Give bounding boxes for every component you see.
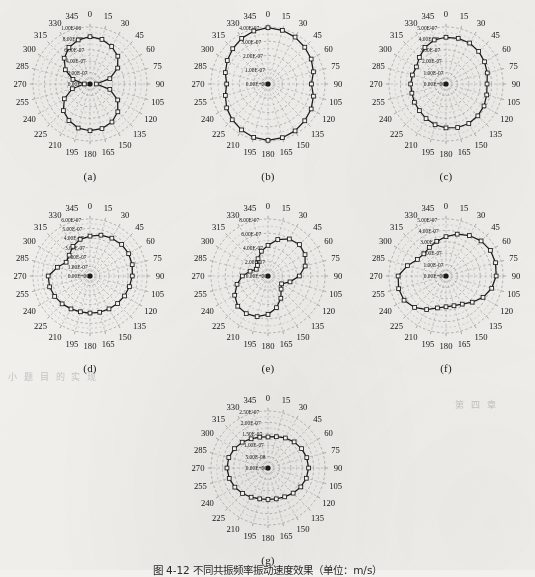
svg-text:45: 45 bbox=[135, 222, 144, 232]
svg-text:270: 270 bbox=[192, 79, 205, 89]
svg-text:285: 285 bbox=[194, 61, 207, 71]
svg-text:105: 105 bbox=[329, 289, 342, 299]
svg-text:45: 45 bbox=[313, 222, 322, 232]
svg-text:75: 75 bbox=[331, 445, 340, 455]
svg-text:45: 45 bbox=[491, 222, 500, 232]
svg-text:30: 30 bbox=[299, 210, 308, 220]
svg-text:330: 330 bbox=[227, 18, 240, 28]
svg-text:165: 165 bbox=[280, 147, 293, 157]
svg-text:225: 225 bbox=[212, 129, 225, 139]
svg-text:285: 285 bbox=[16, 253, 29, 263]
svg-text:210: 210 bbox=[227, 332, 240, 342]
svg-text:135: 135 bbox=[311, 129, 324, 139]
svg-text:90: 90 bbox=[512, 79, 521, 89]
svg-text:135: 135 bbox=[133, 129, 146, 139]
svg-text:135: 135 bbox=[311, 513, 324, 523]
svg-text:135: 135 bbox=[489, 321, 502, 331]
svg-text:30: 30 bbox=[121, 210, 130, 220]
svg-text:105: 105 bbox=[329, 97, 342, 107]
svg-text:195: 195 bbox=[243, 147, 256, 157]
svg-text:135: 135 bbox=[133, 321, 146, 331]
svg-text:60: 60 bbox=[146, 236, 155, 246]
svg-text:105: 105 bbox=[507, 97, 520, 107]
panel-label-a: (a) bbox=[2, 170, 178, 182]
svg-text:180: 180 bbox=[84, 341, 97, 351]
svg-text:240: 240 bbox=[23, 114, 36, 124]
svg-text:240: 240 bbox=[379, 114, 392, 124]
svg-text:330: 330 bbox=[405, 210, 418, 220]
svg-text:15: 15 bbox=[282, 203, 291, 213]
svg-text:240: 240 bbox=[201, 114, 214, 124]
svg-text:30: 30 bbox=[121, 18, 130, 28]
svg-text:0: 0 bbox=[444, 201, 448, 211]
svg-text:255: 255 bbox=[372, 289, 385, 299]
svg-text:300: 300 bbox=[379, 44, 392, 54]
svg-text:270: 270 bbox=[370, 271, 383, 281]
svg-text:285: 285 bbox=[194, 253, 207, 263]
svg-text:165: 165 bbox=[102, 147, 115, 157]
svg-text:0.00E+00: 0.00E+00 bbox=[424, 273, 445, 279]
svg-text:120: 120 bbox=[500, 306, 513, 316]
svg-text:165: 165 bbox=[280, 339, 293, 349]
svg-text:255: 255 bbox=[194, 481, 207, 491]
polar-plot-panel-b: 0153045607590105120135150165180195210225… bbox=[180, 4, 356, 170]
svg-text:135: 135 bbox=[489, 129, 502, 139]
svg-text:300: 300 bbox=[379, 236, 392, 246]
panel-label-e: (e) bbox=[180, 362, 356, 374]
svg-text:165: 165 bbox=[458, 147, 471, 157]
svg-text:240: 240 bbox=[201, 498, 214, 508]
svg-text:210: 210 bbox=[49, 140, 62, 150]
svg-text:120: 120 bbox=[144, 306, 157, 316]
svg-text:30: 30 bbox=[299, 18, 308, 28]
svg-text:180: 180 bbox=[440, 341, 453, 351]
svg-text:5.00E-08: 5.00E-08 bbox=[245, 454, 265, 460]
svg-text:180: 180 bbox=[262, 341, 275, 351]
svg-text:195: 195 bbox=[421, 147, 434, 157]
svg-text:75: 75 bbox=[153, 61, 162, 71]
svg-text:180: 180 bbox=[84, 149, 97, 159]
svg-text:15: 15 bbox=[282, 395, 291, 405]
svg-text:345: 345 bbox=[243, 11, 256, 21]
svg-text:5.00E-07: 5.00E-07 bbox=[417, 217, 437, 223]
svg-text:120: 120 bbox=[322, 114, 335, 124]
svg-text:2.00E-07: 2.00E-07 bbox=[422, 58, 442, 64]
figure-caption: 图 4-12 不同共振频率振动速度效果（单位：m/s） bbox=[0, 562, 535, 577]
svg-text:75: 75 bbox=[509, 61, 518, 71]
svg-text:165: 165 bbox=[280, 531, 293, 541]
svg-text:255: 255 bbox=[194, 289, 207, 299]
svg-text:4.00E-07: 4.00E-07 bbox=[239, 25, 259, 31]
svg-text:270: 270 bbox=[192, 463, 205, 473]
svg-text:195: 195 bbox=[243, 339, 256, 349]
svg-text:0.00E+00: 0.00E+00 bbox=[246, 81, 267, 87]
svg-text:60: 60 bbox=[324, 428, 333, 438]
svg-text:300: 300 bbox=[201, 44, 214, 54]
svg-text:255: 255 bbox=[16, 97, 29, 107]
svg-text:0: 0 bbox=[266, 393, 270, 403]
svg-text:285: 285 bbox=[372, 253, 385, 263]
svg-text:345: 345 bbox=[243, 395, 256, 405]
svg-text:240: 240 bbox=[23, 306, 36, 316]
svg-text:2.00E-07: 2.00E-07 bbox=[243, 53, 263, 59]
panel-label-d: (d) bbox=[2, 362, 178, 374]
svg-text:315: 315 bbox=[212, 30, 225, 40]
svg-text:45: 45 bbox=[491, 30, 500, 40]
svg-text:180: 180 bbox=[440, 149, 453, 159]
svg-text:90: 90 bbox=[156, 79, 165, 89]
svg-text:225: 225 bbox=[390, 321, 403, 331]
svg-text:345: 345 bbox=[421, 203, 434, 213]
svg-text:1.00E-07: 1.00E-07 bbox=[245, 67, 265, 73]
svg-text:300: 300 bbox=[23, 44, 36, 54]
svg-text:60: 60 bbox=[502, 236, 511, 246]
svg-text:285: 285 bbox=[16, 61, 29, 71]
svg-text:45: 45 bbox=[313, 414, 322, 424]
svg-text:1.00E-07: 1.00E-07 bbox=[244, 442, 264, 448]
svg-text:255: 255 bbox=[194, 97, 207, 107]
svg-text:210: 210 bbox=[405, 140, 418, 150]
polar-plot-panel-e: 0153045607590105120135150165180195210225… bbox=[180, 196, 356, 362]
svg-text:6.00E-07: 6.00E-07 bbox=[241, 231, 261, 237]
svg-text:90: 90 bbox=[512, 271, 521, 281]
svg-text:210: 210 bbox=[227, 140, 240, 150]
svg-text:285: 285 bbox=[194, 445, 207, 455]
svg-text:15: 15 bbox=[104, 11, 113, 21]
